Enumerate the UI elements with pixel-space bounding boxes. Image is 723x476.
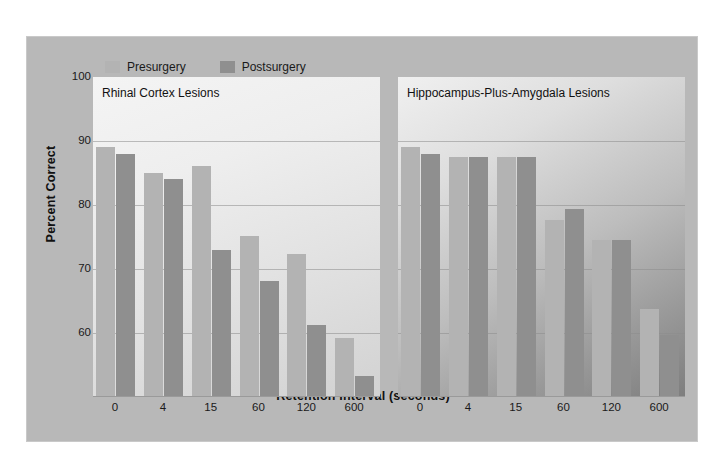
x-tick-label: 4 <box>160 401 166 413</box>
panel-title-hippocampus-amygdala: Hippocampus-Plus-Amygdala Lesions <box>407 86 610 100</box>
bar-postsurgery-600 <box>660 335 679 397</box>
bar-presurgery-15 <box>497 157 516 397</box>
bar-postsurgery-120 <box>612 240 631 397</box>
y-tick-label: 90 <box>51 134 91 146</box>
y-tick-label: 70 <box>51 262 91 274</box>
bar-presurgery-0 <box>96 147 115 397</box>
x-tick-label: 60 <box>252 401 265 413</box>
bar-postsurgery-60 <box>260 281 279 397</box>
x-tick-label: 15 <box>509 401 522 413</box>
bar-presurgery-4 <box>144 173 163 397</box>
bar-postsurgery-15 <box>212 250 231 397</box>
x-tick-label: 600 <box>345 401 364 413</box>
bar-presurgery-0 <box>401 147 420 397</box>
bar-postsurgery-4 <box>164 179 183 397</box>
bar-presurgery-15 <box>192 166 211 397</box>
bar-postsurgery-4 <box>469 157 488 397</box>
bar-postsurgery-60 <box>565 209 584 397</box>
panel-baseline <box>93 396 380 397</box>
bar-postsurgery-15 <box>517 157 536 397</box>
y-tick-label: 60 <box>51 326 91 338</box>
panel-rhinal-cortex: Rhinal Cortex Lesions <box>93 77 380 397</box>
bar-presurgery-60 <box>240 236 259 397</box>
bar-presurgery-120 <box>287 254 306 397</box>
bars-rhinal-cortex <box>93 77 380 397</box>
bar-postsurgery-0 <box>116 154 135 397</box>
x-tick-label: 120 <box>602 401 621 413</box>
bar-presurgery-60 <box>545 220 564 397</box>
plot-area: Percent Correct Retention Interval (seco… <box>27 37 699 443</box>
x-tick-label: 600 <box>650 401 669 413</box>
panel-title-rhinal-cortex: Rhinal Cortex Lesions <box>102 86 219 100</box>
bar-presurgery-600 <box>335 338 354 397</box>
panel-hippocampus-amygdala: Hippocampus-Plus-Amygdala Lesions <box>398 77 685 397</box>
bar-postsurgery-0 <box>421 154 440 397</box>
y-axis-labels: 10090807060 <box>49 37 91 443</box>
y-tick-label: 100 <box>51 70 91 82</box>
figure-container: Presurgery Postsurgery Percent Correct R… <box>26 36 698 442</box>
x-tick-label: 15 <box>204 401 217 413</box>
panel-baseline <box>398 396 685 397</box>
bar-postsurgery-600 <box>355 376 374 397</box>
x-tick-label: 0 <box>417 401 423 413</box>
bar-presurgery-600 <box>640 309 659 397</box>
y-tick-label: 80 <box>51 198 91 210</box>
x-tick-label: 60 <box>557 401 570 413</box>
bar-postsurgery-120 <box>307 325 326 397</box>
x-tick-label: 0 <box>112 401 118 413</box>
bar-presurgery-120 <box>592 240 611 397</box>
x-tick-label: 120 <box>297 401 316 413</box>
bar-presurgery-4 <box>449 157 468 397</box>
x-tick-label: 4 <box>465 401 471 413</box>
bars-hippocampus-amygdala <box>398 77 685 397</box>
